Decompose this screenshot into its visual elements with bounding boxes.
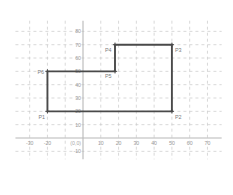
y-axis-tick-label: 70 — [75, 42, 81, 48]
origin-label: (0,0) — [70, 140, 81, 146]
y-axis-tick-label: 80 — [75, 28, 81, 34]
y-axis-tick-label: -10 — [74, 148, 82, 154]
x-axis-tick-label: 60 — [187, 140, 193, 146]
point-label-p6: P6 — [37, 69, 44, 75]
x-axis-tick-label: -30 — [26, 140, 34, 146]
point-label-p1: P1 — [38, 114, 45, 120]
x-axis-tick-label: 40 — [151, 140, 157, 146]
x-axis-tick-label: 30 — [133, 140, 139, 146]
x-axis-tick-label: 50 — [169, 140, 175, 146]
x-axis-tick-label: -20 — [44, 140, 52, 146]
point-label-p2: P2 — [175, 114, 182, 120]
coordinate-plot: -30-2010203040506070-101020304050607080(… — [0, 0, 233, 195]
y-axis-tick-label: 60 — [75, 55, 81, 61]
y-axis-tick-label: 10 — [75, 122, 81, 128]
y-axis-tick-label: 40 — [75, 82, 81, 88]
tick-label-layer: -30-2010203040506070-101020304050607080(… — [26, 28, 211, 154]
x-axis-tick-label: 70 — [205, 140, 211, 146]
x-axis-tick-label: 10 — [98, 140, 104, 146]
y-axis-tick-label: 30 — [75, 95, 81, 101]
point-label-p3: P3 — [175, 47, 182, 53]
x-axis-tick-label: 20 — [116, 140, 122, 146]
chart-svg: -30-2010203040506070-101020304050607080(… — [0, 0, 233, 195]
point-label-p5: P5 — [105, 73, 112, 79]
point-label-p4: P4 — [105, 47, 112, 53]
